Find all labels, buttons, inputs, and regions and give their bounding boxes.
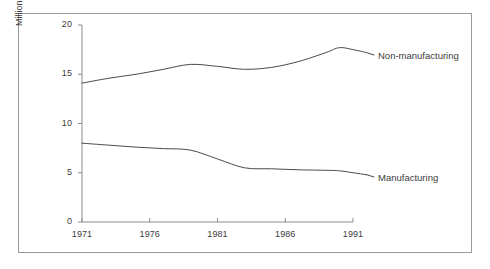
figure-container: Millions 05101520 19711976198119861991 N… xyxy=(0,0,490,269)
x-axis-tick-label: 1986 xyxy=(265,229,305,239)
data-series-group xyxy=(82,48,367,175)
leader-line-non-manufacturing xyxy=(367,53,374,55)
x-axis-ticks xyxy=(82,218,353,222)
x-axis-tick-label: 1971 xyxy=(62,229,102,239)
series-label-non-manufacturing: Non-manufacturing xyxy=(378,50,459,61)
x-axis-tick-label: 1991 xyxy=(333,229,373,239)
series-label-manufacturing: Manufacturing xyxy=(378,172,438,183)
series-line-manufacturing xyxy=(82,143,367,175)
y-axis-ticks xyxy=(78,25,82,222)
axes-group xyxy=(78,25,353,222)
x-axis-tick-label: 1976 xyxy=(130,229,170,239)
x-axis-tick-label: 1981 xyxy=(198,229,238,239)
y-axis-tick-label: 20 xyxy=(50,19,72,29)
y-axis-tick-label: 0 xyxy=(50,216,72,226)
series-line-non-manufacturing xyxy=(82,48,367,84)
annotation-leader-lines xyxy=(367,53,374,177)
y-axis-tick-label: 10 xyxy=(50,118,72,128)
y-axis-tick-label: 15 xyxy=(50,68,72,78)
y-axis-tick-label: 5 xyxy=(50,167,72,177)
leader-line-manufacturing xyxy=(367,175,374,177)
